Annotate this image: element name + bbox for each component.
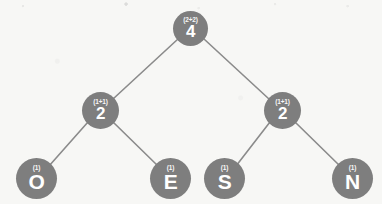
tree-node-internal-right[interactable]: (1+1) 2 [264, 92, 301, 129]
node-weight-label: (2+2) [183, 17, 197, 24]
edge-left-leafE [113, 122, 158, 166]
tree-node-leaf-n[interactable]: (1) N [332, 158, 373, 199]
edge-right-leafS [236, 122, 270, 166]
tree-node-root[interactable]: (2+2) 4 [173, 11, 208, 46]
tree-node-leaf-e[interactable]: (1) E [150, 158, 191, 199]
node-value-label: 4 [186, 23, 195, 40]
node-value-label: S [218, 171, 232, 192]
node-value-label: O [28, 171, 44, 192]
tree-node-leaf-o[interactable]: (1) O [16, 158, 57, 199]
node-value-label: 2 [278, 105, 287, 122]
node-value-label: 2 [96, 105, 105, 122]
node-weight-label: (1+1) [93, 99, 107, 106]
edge-right-leafN [295, 122, 340, 166]
node-weight-label: (1) [167, 165, 174, 172]
edge-root-left [113, 39, 178, 99]
diagram-canvas: (2+2) 4 (1+1) 2 (1+1) 2 (1) O (1) E (1) … [0, 0, 382, 204]
edge-left-leafO [49, 122, 88, 166]
node-weight-label: (1) [349, 165, 356, 172]
node-value-label: N [345, 171, 360, 192]
tree-node-internal-left[interactable]: (1+1) 2 [82, 92, 119, 129]
node-value-label: E [164, 171, 178, 192]
node-weight-label: (1) [221, 165, 228, 172]
node-weight-label: (1) [33, 165, 40, 172]
edge-root-right [204, 39, 269, 99]
node-weight-label: (1+1) [275, 99, 289, 106]
tree-node-leaf-s[interactable]: (1) S [204, 158, 245, 199]
